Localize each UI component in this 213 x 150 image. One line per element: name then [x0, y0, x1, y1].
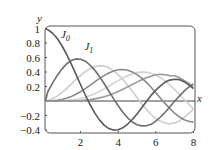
y-tick-label: 0.2 — [26, 81, 40, 93]
y-tick-label: 0.6 — [26, 52, 40, 64]
y-tick-label: 1 — [35, 23, 41, 35]
x-tick-label: 6 — [153, 136, 159, 148]
y-axis-label: y — [36, 12, 42, 24]
x-tick-label: 8 — [191, 136, 197, 148]
curve-j3 — [46, 70, 194, 123]
curve-j2 — [46, 66, 194, 124]
y-tick-label: −0.2 — [20, 110, 40, 122]
y-tick-label: 0.4 — [26, 66, 40, 78]
x-tick-label: 4 — [115, 136, 121, 148]
y-tick-label: 0.8 — [26, 37, 40, 49]
curve-label-j0: J0 — [61, 28, 70, 43]
x-tick-labels: 2468 — [78, 131, 197, 148]
x-axis-label: x — [196, 92, 202, 104]
bessel-chart: 10.80.60.40.2−0.2−0.4 2468 y x J0J1 — [0, 0, 213, 150]
x-tick-label: 2 — [78, 136, 84, 148]
y-tick-labels: 10.80.60.40.2−0.2−0.4 — [20, 23, 47, 137]
curves — [46, 29, 194, 131]
curve-label-j1: J1 — [84, 40, 93, 55]
y-tick-label: −0.4 — [20, 124, 40, 136]
